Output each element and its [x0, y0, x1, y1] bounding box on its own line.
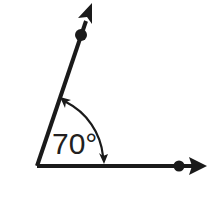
angle-figure-svg: 70°	[0, 0, 223, 205]
angle-measure-label: 70°	[52, 127, 97, 160]
upper-ray-point-dot-icon	[75, 29, 87, 41]
angle-diagram-canvas: 70°	[0, 0, 223, 205]
horizontal-ray-point-dot-icon	[174, 161, 185, 172]
